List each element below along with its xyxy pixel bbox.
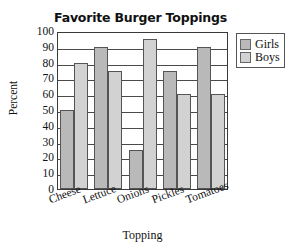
bar-lettuce-boys <box>108 71 122 190</box>
burger-toppings-bar-chart: Favorite Burger Toppings Percent 1009080… <box>0 0 298 249</box>
y-axis-ticks: 1009080706050403020100 <box>24 32 54 190</box>
legend-item-girls[interactable]: Girls <box>240 38 280 50</box>
x-axis-ticks: CheeseLettuceOnionsPicklesTomatoes <box>57 190 228 226</box>
legend-label: Boys <box>255 51 280 63</box>
y-tick-label: 20 <box>43 153 55 165</box>
y-axis-label: Percent <box>7 63 19 133</box>
y-tick-label: 100 <box>37 26 54 38</box>
bar-group-tomatoes <box>197 33 225 189</box>
y-tick-label: 70 <box>43 74 55 86</box>
bar-pickles-girls <box>163 71 177 190</box>
y-tick-label: 50 <box>43 105 55 117</box>
bar-tomatoes-girls <box>197 47 211 189</box>
bar-onions-boys <box>143 39 157 189</box>
chart-legend: GirlsBoys <box>236 33 285 68</box>
y-tick-label: 90 <box>43 42 55 54</box>
chart-title: Favorite Burger Toppings <box>48 10 233 25</box>
bar-group-onions <box>129 33 157 189</box>
bar-cheese-boys <box>74 63 88 189</box>
y-tick-label: 10 <box>43 168 55 180</box>
y-tick-label: 60 <box>43 89 55 101</box>
bar-onions-girls <box>129 150 143 190</box>
bar-group-cheese <box>60 33 88 189</box>
bar-group-pickles <box>163 33 191 189</box>
bar-cheese-girls <box>60 110 74 189</box>
bar-pickles-boys <box>177 94 191 189</box>
y-tick-label: 40 <box>43 121 55 133</box>
y-tick-label: 30 <box>43 137 55 149</box>
bar-lettuce-girls <box>94 47 108 189</box>
bar-tomatoes-boys <box>211 94 225 189</box>
legend-label: Girls <box>255 38 279 50</box>
bar-groups <box>58 33 227 189</box>
plot-area <box>57 32 228 190</box>
legend-item-boys[interactable]: Boys <box>240 51 280 63</box>
bar-group-lettuce <box>94 33 122 189</box>
legend-swatch-icon-boys <box>240 52 251 63</box>
y-tick-label: 80 <box>43 58 55 70</box>
legend-swatch-icon-girls <box>240 39 251 50</box>
x-axis-label: Topping <box>57 228 228 243</box>
